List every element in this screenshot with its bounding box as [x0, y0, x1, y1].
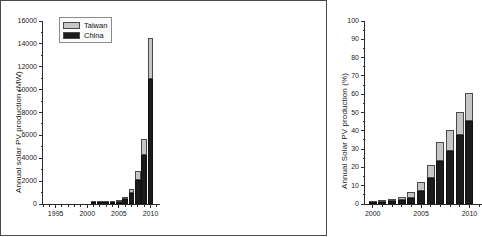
x-tick-mark — [421, 204, 422, 208]
y-tick-mark-minor — [41, 101, 44, 102]
bar-segment-china — [135, 180, 141, 204]
x-tick-mark-minor — [411, 204, 412, 207]
legend-label-china: China — [84, 31, 104, 40]
x-tick-mark-minor — [156, 204, 157, 207]
y-tick-label: 90 — [351, 34, 359, 43]
y-tick-mark — [361, 57, 365, 58]
y-tick-label: 50 — [351, 108, 359, 117]
x-tick-label: 2005 — [111, 209, 127, 218]
x-tick-label: 2010 — [143, 209, 159, 218]
bar-segment-china — [417, 191, 425, 204]
bar-segment-china — [369, 202, 377, 204]
y-tick-label: 30 — [351, 144, 359, 153]
bar-segment-china — [91, 202, 97, 204]
y-tick-label: 8000 — [21, 108, 37, 117]
x-tick-mark-minor — [137, 204, 138, 207]
y-tick-label: 0 — [355, 199, 359, 208]
bar-stack — [122, 21, 128, 204]
y-tick-mark-minor — [363, 66, 366, 67]
bar-segment-taiwan — [427, 165, 435, 178]
y-tick-label: 40 — [351, 126, 359, 135]
x-tick-mark — [87, 204, 88, 208]
x-tick-mark-minor — [74, 204, 75, 207]
y-tick-label: 2000 — [21, 176, 37, 185]
y-tick-mark — [361, 112, 365, 113]
x-tick-mark-minor — [68, 204, 69, 207]
bar-stack — [91, 21, 97, 204]
y-tick-label: 80 — [351, 53, 359, 62]
bar-stack — [388, 21, 396, 204]
y-tick-label: 12000 — [18, 62, 37, 71]
bar-segment-china — [110, 202, 116, 204]
bar-segment-china — [388, 201, 396, 204]
bar-stack — [103, 21, 109, 204]
y-tick-mark-minor — [363, 139, 366, 140]
bar-stack — [135, 21, 141, 204]
legend-swatch-taiwan — [63, 22, 80, 29]
x-tick-mark-minor — [440, 204, 441, 207]
y-tick-mark-minor — [41, 169, 44, 170]
bar-stack — [407, 21, 415, 204]
y-tick-mark — [361, 185, 365, 186]
bar-stack — [141, 21, 147, 204]
x-tick-mark-minor — [450, 204, 451, 207]
x-tick-mark-minor — [382, 204, 383, 207]
bar-stack — [446, 21, 454, 204]
y-tick-label: 0 — [33, 199, 37, 208]
bar-segment-taiwan — [135, 171, 141, 180]
y-tick-label: 16000 — [18, 16, 37, 25]
bar-stack — [417, 21, 425, 204]
y-tick-mark-minor — [363, 194, 366, 195]
bar-segment-china — [465, 121, 473, 204]
bar-segment-taiwan — [148, 38, 154, 79]
y-tick-label: 20 — [351, 162, 359, 171]
x-tick-mark-minor — [106, 204, 107, 207]
bar-segment-china — [378, 202, 386, 204]
x-tick-mark-minor — [80, 204, 81, 207]
bar-stack — [427, 21, 435, 204]
y-tick-mark — [39, 89, 43, 90]
x-tick-mark — [118, 204, 119, 208]
bar-stack — [369, 21, 377, 204]
y-tick-mark-minor — [363, 30, 366, 31]
y-tick-mark-minor — [41, 55, 44, 56]
y-tick-mark — [361, 21, 365, 22]
bar-segment-china — [446, 151, 454, 204]
x-tick-mark-minor — [401, 204, 402, 207]
y-tick-mark-minor — [41, 78, 44, 79]
bar-stack — [398, 21, 406, 204]
legend-item-taiwan: Taiwan — [63, 20, 107, 30]
bar-segment-taiwan — [141, 139, 147, 155]
plot-area-right: 0102030405060708090100 200020052010 — [364, 21, 482, 205]
y-tick-mark — [361, 75, 365, 76]
y-tick-mark-minor — [363, 85, 366, 86]
y-tick-mark — [361, 204, 365, 205]
y-tick-mark — [39, 21, 43, 22]
bar-segment-china — [148, 79, 154, 204]
legend-item-china: China — [63, 30, 107, 40]
y-tick-label: 70 — [351, 71, 359, 80]
plot-area-left: 0200040006000800010000120001400016000 19… — [42, 21, 160, 205]
x-tick-mark-minor — [99, 204, 100, 207]
x-tick-mark-minor — [392, 204, 393, 207]
bar-segment-china — [116, 202, 122, 204]
y-tick-label: 60 — [351, 89, 359, 98]
bar-segment-taiwan — [465, 93, 473, 121]
bar-stack — [456, 21, 464, 204]
y-tick-label: 14000 — [18, 39, 37, 48]
y-tick-mark — [361, 149, 365, 150]
y-tick-mark-minor — [363, 103, 366, 104]
bar-segment-china — [122, 199, 128, 204]
bar-stack — [436, 21, 444, 204]
bar-segment-china — [141, 155, 147, 204]
y-tick-mark-minor — [363, 121, 366, 122]
chart-panel-left: Annual solar PV production (MW) 02000400… — [1, 1, 165, 237]
x-tick-mark-minor — [479, 204, 480, 207]
bar-stack — [148, 21, 154, 204]
x-tick-label: 1995 — [48, 209, 64, 218]
x-tick-mark — [55, 204, 56, 208]
x-tick-mark — [372, 204, 373, 208]
y-tick-mark-minor — [363, 158, 366, 159]
y-tick-label: 4000 — [21, 153, 37, 162]
